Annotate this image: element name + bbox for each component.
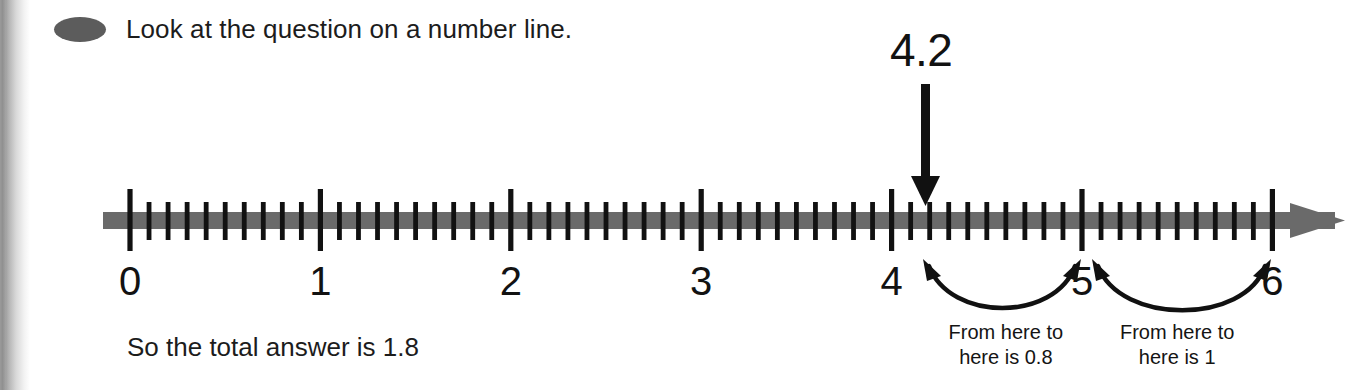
minor-tick xyxy=(1118,202,1123,240)
major-tick xyxy=(1079,189,1084,251)
minor-tick xyxy=(680,202,685,240)
minor-tick xyxy=(946,202,951,240)
span-arc-4p2-to-5 xyxy=(923,259,1081,308)
minor-tick xyxy=(604,202,609,240)
minor-tick xyxy=(1232,202,1237,240)
worksheet-page: Look at the question on a number line. 4… xyxy=(0,0,1371,390)
span-caption-line1: From here to xyxy=(1072,320,1282,345)
major-tick xyxy=(318,189,323,251)
minor-tick xyxy=(261,202,266,240)
axis-tick-label-3: 3 xyxy=(690,258,712,304)
minor-tick xyxy=(1022,202,1027,240)
minor-tick xyxy=(204,202,209,240)
minor-tick xyxy=(623,202,628,240)
minor-tick xyxy=(737,202,742,240)
minor-tick xyxy=(756,202,761,240)
span-caption-line2: here is 1 xyxy=(1072,345,1282,370)
minor-tick xyxy=(585,202,590,240)
minor-tick xyxy=(927,202,932,240)
major-tick xyxy=(1270,189,1275,251)
minor-tick xyxy=(1003,202,1008,240)
minor-tick xyxy=(566,202,571,240)
tick-group xyxy=(127,189,1275,251)
minor-tick xyxy=(356,202,361,240)
minor-tick xyxy=(775,202,780,240)
minor-tick xyxy=(147,202,152,240)
minor-tick xyxy=(299,202,304,240)
minor-tick xyxy=(1194,202,1199,240)
minor-tick xyxy=(546,202,551,240)
minor-tick xyxy=(661,202,666,240)
minor-tick xyxy=(965,202,970,240)
minor-tick xyxy=(185,202,190,240)
minor-tick xyxy=(394,202,399,240)
minor-tick xyxy=(1137,202,1142,240)
minor-tick xyxy=(1175,202,1180,240)
minor-tick xyxy=(280,202,285,240)
conclusion-text: So the total answer is 1.8 xyxy=(127,330,419,364)
minor-tick xyxy=(242,202,247,240)
minor-tick xyxy=(489,202,494,240)
minor-tick xyxy=(1099,202,1104,240)
minor-tick xyxy=(870,202,875,240)
minor-tick xyxy=(1251,202,1256,240)
axis-right-arrowhead-icon xyxy=(1290,203,1345,238)
minor-tick xyxy=(718,202,723,240)
minor-tick xyxy=(1156,202,1161,240)
axis-tick-label-2: 2 xyxy=(500,258,522,304)
major-tick xyxy=(889,189,894,251)
minor-tick xyxy=(451,202,456,240)
minor-tick xyxy=(375,202,380,240)
minor-tick xyxy=(337,202,342,240)
minor-tick xyxy=(813,202,818,240)
minor-tick xyxy=(908,202,913,240)
major-tick xyxy=(508,189,513,251)
axis-tick-label-1: 1 xyxy=(309,258,331,304)
minor-tick xyxy=(1061,202,1066,240)
major-tick xyxy=(699,189,704,251)
minor-tick xyxy=(832,202,837,240)
minor-tick xyxy=(1213,202,1218,240)
span-caption-span-5-to-6: From here tohere is 1 xyxy=(1072,320,1282,370)
minor-tick xyxy=(432,202,437,240)
minor-tick xyxy=(527,202,532,240)
minor-tick xyxy=(413,202,418,240)
minor-tick xyxy=(166,202,171,240)
minor-tick xyxy=(223,202,228,240)
minor-tick xyxy=(794,202,799,240)
minor-tick xyxy=(984,202,989,240)
axis-tick-label-4: 4 xyxy=(880,258,902,304)
span-arc-5-to-6 xyxy=(1092,259,1271,310)
minor-tick xyxy=(851,202,856,240)
minor-tick xyxy=(470,202,475,240)
axis-tick-label-0: 0 xyxy=(119,258,141,304)
minor-tick xyxy=(1042,202,1047,240)
value-pointer-arrow-icon xyxy=(911,84,940,206)
minor-tick xyxy=(642,202,647,240)
axis-tick-label-5: 5 xyxy=(1071,258,1093,304)
major-tick xyxy=(127,189,132,251)
axis-tick-label-6: 6 xyxy=(1261,258,1283,304)
